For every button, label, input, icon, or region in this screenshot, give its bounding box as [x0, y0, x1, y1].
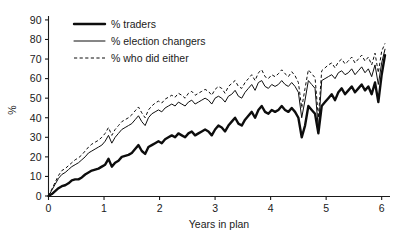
y-tick-label: 0: [36, 190, 42, 202]
line-chart: 0102030405060708090 0123456 % Years in p…: [0, 0, 401, 236]
x-tick-label: 2: [157, 202, 163, 214]
y-tick-label: 10: [30, 170, 42, 182]
legend-label-traders: % traders: [111, 18, 156, 30]
legend-label-election-changers: % election changers: [111, 35, 206, 47]
legend-label-who-did-either: % who did either: [111, 52, 189, 64]
chart-figure: 0102030405060708090 0123456 % Years in p…: [0, 0, 401, 236]
x-tick-label: 4: [268, 202, 274, 214]
x-tick-label: 1: [101, 202, 107, 214]
y-tick-label: 90: [30, 14, 42, 26]
x-tick-label: 6: [379, 202, 385, 214]
y-tick-label: 50: [30, 92, 42, 104]
x-tick-label: 0: [46, 202, 52, 214]
y-tick-label: 40: [30, 112, 42, 124]
y-tick-label: 80: [30, 33, 42, 45]
x-tick-label: 3: [212, 202, 218, 214]
y-tick-label: 30: [30, 131, 42, 143]
y-tick-label: 20: [30, 151, 42, 163]
x-axis-title: Years in plan: [189, 218, 249, 230]
y-tick-label: 70: [30, 53, 42, 65]
y-tick-label: 60: [30, 72, 42, 84]
y-axis-title: %: [6, 105, 18, 114]
x-tick-label: 5: [323, 202, 329, 214]
